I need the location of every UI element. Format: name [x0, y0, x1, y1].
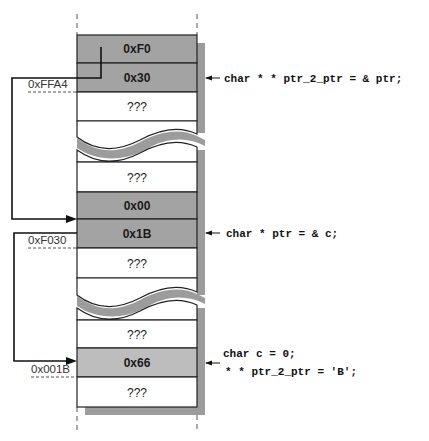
shadow-block1: [197, 43, 205, 133]
code-annotations: char * * ptr_2_ptr = & ptr; char * ptr =…: [205, 73, 402, 378]
arrow-left-icon: [205, 231, 212, 236]
cell-label: ???: [127, 386, 147, 400]
cell-label: 0x1B: [123, 227, 152, 241]
arrowhead-right-icon: [66, 357, 77, 365]
address-label-f030: 0xF030: [28, 234, 66, 246]
arrowhead-right-icon: [66, 215, 77, 223]
code-ptr: char * ptr = & c;: [226, 228, 338, 240]
ptr-arrow: [14, 233, 77, 361]
shadow-block3: [197, 308, 205, 415]
cell-label: ???: [127, 328, 147, 342]
cell-label: ???: [127, 100, 147, 114]
shadow-block2: [197, 150, 205, 295]
cell-label: 0x30: [124, 71, 151, 85]
memory-block-2: [77, 142, 197, 306]
cell-label: 0x66: [124, 356, 151, 370]
address-label-ffa4: 0xFFA4: [28, 78, 68, 90]
memory-diagram: 0xF0 0x30 ??? ??? 0x00 0x1B ??? ??? 0x66…: [0, 0, 429, 441]
arrowheads: [66, 215, 77, 365]
shadow-bottom: [85, 407, 205, 415]
code-char-c: char c = 0;: [223, 348, 296, 360]
code-ptr-2-ptr: char * * ptr_2_ptr = & ptr;: [224, 73, 402, 85]
arrow-left-icon: [205, 76, 212, 81]
arrow-left-icon: [205, 361, 212, 366]
address-label-001b: 0x001B: [31, 363, 70, 375]
cell-label: 0x00: [124, 199, 151, 213]
cell-label: 0xF0: [123, 42, 151, 56]
address-labels: 0xFFA4 0xF030 0x001B: [28, 78, 77, 377]
code-deref-assign: * * ptr_2_ptr = 'B';: [225, 366, 357, 378]
cell-label: ???: [127, 257, 147, 271]
cell-label: ???: [127, 171, 147, 185]
